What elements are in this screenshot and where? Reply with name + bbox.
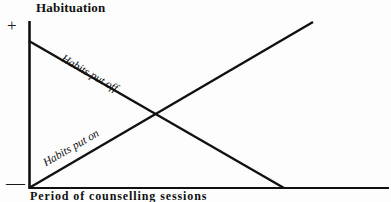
habits-put-on-line <box>29 22 313 188</box>
habituation-chart-figure: Habituation + — Habits put off Habits pu… <box>0 0 391 202</box>
y-axis-negative-marker: — <box>6 173 25 192</box>
chart-plot-area <box>0 0 391 202</box>
chart-title: Habituation <box>36 0 105 15</box>
x-axis-caption: Period of counselling sessions <box>30 190 207 202</box>
y-axis-positive-marker: + <box>7 17 17 34</box>
